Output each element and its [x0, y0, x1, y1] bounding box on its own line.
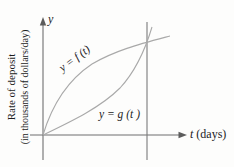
rate-of-deposit-chart [0, 0, 234, 167]
figure-canvas: Rate of deposit (in thousands of dollars… [0, 0, 234, 167]
x-axis-symbol: t [190, 127, 193, 141]
x-axis-unit: (days) [196, 127, 226, 141]
y-axis-caption-line2: (in thousands of dollars/day) [18, 17, 31, 157]
curve-g-label: y = g (t ) [99, 109, 140, 121]
y-axis-symbol: y [48, 13, 53, 25]
x-axis-label: t(days) [190, 128, 226, 140]
x-axis-arrow-icon [179, 132, 188, 138]
y-axis-caption: Rate of deposit (in thousands of dollars… [5, 17, 31, 157]
y-axis-arrow-icon [40, 17, 46, 26]
y-axis-caption-line1: Rate of deposit [5, 17, 18, 157]
